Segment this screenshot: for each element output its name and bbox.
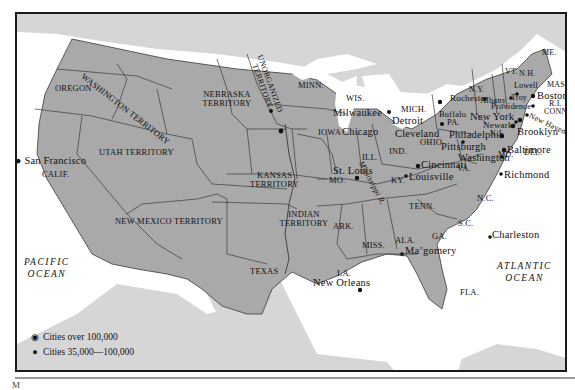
label-ind: IND.: [389, 147, 407, 156]
label-vt: VT.: [505, 68, 518, 76]
ocean-line: OCEAN: [24, 270, 70, 280]
dot-icon: ●: [27, 347, 43, 357]
label-miss: MISS.: [362, 241, 385, 250]
city-cleveland: Cleveland: [395, 129, 439, 140]
city-lowell: Lowell: [514, 82, 538, 90]
label-wis: WIS.: [346, 94, 365, 103]
label-conn: CONN.: [544, 108, 567, 116]
ocean-line: ATLANTIC: [497, 262, 552, 272]
label-pa: PA.: [447, 118, 460, 127]
legend-label: Cities over 100,000: [43, 332, 118, 342]
city-san-francisco: ● San Francisco: [15, 156, 86, 167]
label-me: ME.: [542, 49, 557, 57]
label-mich: MICH.: [401, 105, 426, 114]
city-boston: Boston: [537, 91, 567, 102]
city-louisville: Louisville: [409, 172, 454, 183]
city-charleston: Charleston: [492, 230, 540, 241]
label-fla: FLA.: [460, 288, 479, 297]
ocean-line: OCEAN: [497, 274, 552, 284]
city-montgomery: Mа’gomery: [405, 246, 456, 257]
city-brooklyn: Brooklyn: [517, 127, 558, 138]
city-milwaukee: Milwaukee: [333, 108, 382, 119]
footer-glyph: M: [12, 380, 20, 390]
map-frame: WASHINGTON TERRITORY OREGON NEBRASKA TER…: [15, 12, 567, 372]
cuba-land: [457, 344, 567, 372]
city-detroit: Detroit: [392, 116, 423, 127]
label-iowa: IOWA: [318, 128, 341, 137]
city-buffalo: Buffalo: [439, 110, 466, 119]
label-new-mexico-territory: NEW MEXICO TERRITORY: [115, 217, 223, 226]
label-nebraska-territory: NEBRASKA TERRITORY: [192, 90, 262, 107]
map-legend: ◉ Cities over 100,000 ● Cities 35,000—10…: [27, 329, 134, 359]
label-calif: CALIF.: [42, 170, 69, 179]
label-ga: GA.: [432, 232, 447, 241]
city-cincinnati: Cincinnati: [421, 160, 467, 171]
city-philadelphia: Philadelphia: [449, 130, 504, 141]
ocean-line: PACIFIC: [24, 258, 70, 268]
label-sc: S.C.: [458, 219, 473, 228]
label-utah-territory: UTAH TERRITORY: [99, 148, 174, 157]
city-new-orleans: New Orleans: [313, 278, 370, 289]
city-providence: Providence: [491, 102, 531, 111]
label-mo: MO.: [329, 176, 345, 185]
label-oregon: OREGON: [55, 84, 92, 93]
label-atlantic-ocean: ATLANTIC OCEAN: [497, 262, 552, 283]
city-baltimore: Baltimore: [507, 145, 551, 156]
label-indian-territory: INDIAN TERRITORY: [279, 210, 329, 227]
legend-row-large-cities: ◉ Cities over 100,000: [27, 329, 134, 344]
label-ark: ARK.: [333, 222, 354, 231]
circled-dot-icon: ◉: [27, 332, 43, 342]
label-minn: MINN.: [298, 81, 324, 90]
city-pittsburgh: Pittsburgh: [441, 142, 486, 153]
label-pacific-ocean: PACIFIC OCEAN: [24, 258, 70, 279]
city-richmond: Richmond: [504, 170, 549, 181]
label-texas: TEXAS: [250, 267, 278, 276]
label-ky: KY.: [391, 176, 405, 185]
legend-row-small-cities: ● Cities 35,000—100,000: [27, 344, 134, 359]
label-tenn: TENN.: [409, 202, 435, 211]
city-chicago: Chicago: [342, 127, 378, 138]
city-name: San Francisco: [24, 155, 86, 166]
label-kansas-territory: KANSAS TERRITORY: [247, 171, 302, 188]
label-ala: ALA.: [395, 236, 415, 245]
footer-rule: [15, 377, 575, 379]
legend-label: Cities 35,000—100,000: [43, 347, 134, 357]
label-nh: N.H.: [519, 70, 535, 78]
label-mass: MASS.: [547, 81, 567, 89]
label-nc: N.C.: [477, 194, 494, 203]
